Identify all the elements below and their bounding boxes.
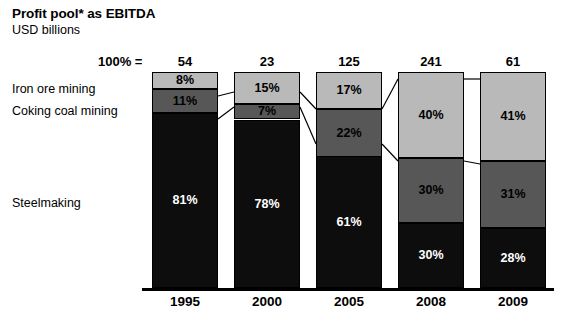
segment-steelmaking-1995: 81% [152, 113, 218, 288]
segment-steelmaking-2005: 61% [316, 156, 382, 288]
segment-coking_coal-2000: 7% [234, 104, 300, 119]
x-axis-line [142, 288, 554, 291]
segment-value-coking_coal-2005: 22% [336, 127, 361, 140]
segment-value-iron_ore-2008: 40% [418, 109, 443, 122]
bar-2008: 40%30%30% [398, 72, 464, 288]
segment-coking_coal-2009: 31% [480, 161, 546, 228]
segment-value-iron_ore-2000: 15% [254, 82, 279, 95]
segment-coking_coal-1995: 11% [152, 89, 218, 113]
category-label-coking-coal-mining: Coking coal mining [12, 104, 118, 118]
segment-value-coking_coal-2000: 7% [258, 105, 276, 118]
total-value-2009: 61 [480, 54, 546, 69]
segment-value-steelmaking-1995: 81% [172, 194, 197, 207]
segment-steelmaking-2000: 78% [234, 120, 300, 288]
segment-steelmaking-2009: 28% [480, 228, 546, 288]
segment-value-steelmaking-2005: 61% [336, 216, 361, 229]
year-label-2000: 2000 [234, 294, 300, 309]
bar-2009: 41%31%28% [480, 72, 546, 288]
segment-iron_ore-2009: 41% [480, 72, 546, 161]
segment-coking_coal-2005: 22% [316, 109, 382, 157]
segment-value-coking_coal-1995: 11% [173, 95, 197, 108]
total-row-label: 100% = [98, 54, 142, 69]
segment-value-iron_ore-1995: 8% [176, 74, 194, 87]
year-label-2008: 2008 [398, 294, 464, 309]
category-label-steelmaking: Steelmaking [12, 196, 81, 210]
segment-value-iron_ore-2009: 41% [500, 110, 525, 123]
total-value-2000: 23 [234, 54, 300, 69]
segment-value-coking_coal-2009: 31% [500, 188, 525, 201]
segment-coking_coal-2008: 30% [398, 158, 464, 223]
bar-2005: 17%22%61% [316, 72, 382, 288]
chart-subtitle: USD billions [12, 23, 80, 37]
year-label-1995: 1995 [152, 294, 218, 309]
bar-2000: 15%7%78% [234, 72, 300, 288]
segment-value-steelmaking-2009: 28% [500, 252, 525, 265]
total-value-2005: 125 [316, 54, 382, 69]
year-label-2005: 2005 [316, 294, 382, 309]
chart-title: Profit pool* as EBITDA [12, 6, 155, 21]
year-label-2009: 2009 [480, 294, 546, 309]
bar-1995: 8%11%81% [152, 72, 218, 288]
segment-value-steelmaking-2008: 30% [418, 249, 443, 262]
segment-iron_ore-2005: 17% [316, 72, 382, 109]
segment-value-steelmaking-2000: 78% [254, 198, 279, 211]
segment-value-coking_coal-2008: 30% [418, 184, 443, 197]
segment-value-iron_ore-2005: 17% [336, 84, 361, 97]
segment-steelmaking-2008: 30% [398, 223, 464, 288]
chart-container: Profit pool* as EBITDA USD billions 100%… [0, 0, 570, 319]
category-label-iron-ore-mining: Iron ore mining [12, 82, 95, 96]
segment-iron_ore-1995: 8% [152, 72, 218, 89]
total-value-2008: 241 [398, 54, 464, 69]
segment-iron_ore-2008: 40% [398, 72, 464, 158]
segment-iron_ore-2000: 15% [234, 72, 300, 104]
total-value-1995: 54 [152, 54, 218, 69]
